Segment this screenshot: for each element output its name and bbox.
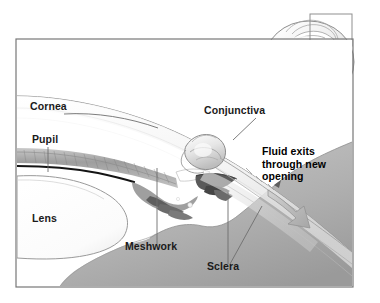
label-conjunctiva: Conjunctiva (204, 104, 265, 116)
label-meshwork: Meshwork (125, 240, 177, 252)
callout-line-2: through new (262, 158, 327, 170)
label-cornea: Cornea (30, 100, 67, 112)
eye-anatomy-figure: Cornea Pupil Lens Conjunctiva Meshwork S… (0, 0, 380, 303)
label-sclera: Sclera (207, 260, 239, 272)
callout-line-3: opening (262, 170, 304, 182)
label-pupil: Pupil (32, 133, 58, 145)
callout-line-1: Fluid exits (262, 145, 315, 157)
label-lens: Lens (32, 212, 57, 224)
